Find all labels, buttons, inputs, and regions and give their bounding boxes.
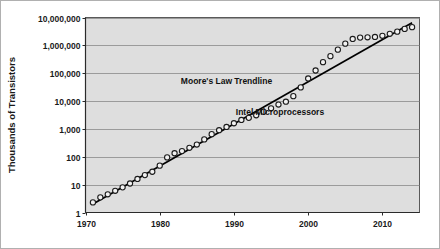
data-point bbox=[113, 188, 118, 193]
chart-annotation-label: Moore's Law Trendline bbox=[181, 76, 273, 86]
data-point bbox=[165, 155, 170, 160]
data-point bbox=[306, 76, 311, 81]
data-point bbox=[135, 176, 140, 181]
data-point bbox=[127, 181, 132, 186]
data-point bbox=[313, 68, 318, 73]
data-point bbox=[380, 33, 385, 38]
data-point bbox=[187, 145, 192, 150]
y-axis-ticks: 1101001,00010,000100,0001,000,00010,000,… bbox=[38, 14, 86, 219]
data-point bbox=[239, 117, 244, 122]
data-point bbox=[343, 41, 348, 46]
data-point bbox=[142, 173, 147, 178]
y-tick-label: 100 bbox=[66, 153, 80, 163]
data-point bbox=[98, 195, 103, 200]
data-point bbox=[291, 94, 296, 99]
y-tick-label: 1,000,000 bbox=[43, 41, 81, 51]
x-tick-label: 1980 bbox=[151, 219, 170, 229]
data-point bbox=[320, 60, 325, 65]
data-point bbox=[372, 34, 377, 39]
data-point bbox=[335, 47, 340, 52]
chart-annotation-label: Intel Microprocessors bbox=[236, 107, 325, 117]
y-tick-label: 1,000 bbox=[59, 125, 81, 135]
data-point bbox=[328, 54, 333, 59]
data-point bbox=[350, 36, 355, 41]
data-point bbox=[150, 169, 155, 174]
data-point bbox=[402, 26, 407, 31]
x-tick-label: 2010 bbox=[373, 219, 392, 229]
data-point bbox=[409, 25, 414, 30]
data-point bbox=[179, 149, 184, 154]
data-point bbox=[120, 185, 125, 190]
x-tick-label: 1970 bbox=[77, 219, 96, 229]
data-point bbox=[298, 85, 303, 90]
moores-law-chart: 1101001,00010,000100,0001,000,00010,000,… bbox=[0, 0, 440, 249]
y-tick-label: 10,000,000 bbox=[38, 14, 81, 24]
data-point bbox=[194, 142, 199, 147]
y-tick-label: 10 bbox=[71, 181, 81, 191]
data-point bbox=[387, 31, 392, 36]
data-point bbox=[224, 124, 229, 129]
x-tick-label: 1990 bbox=[225, 219, 244, 229]
x-axis-ticks: 19701980199020002010 bbox=[77, 213, 392, 229]
data-point bbox=[358, 35, 363, 40]
data-point bbox=[105, 192, 110, 197]
y-tick-label: 1 bbox=[76, 209, 81, 219]
y-axis-title: Thousands of Transistors bbox=[6, 57, 17, 173]
y-tick-label: 100,000 bbox=[50, 69, 81, 79]
data-point bbox=[90, 200, 95, 205]
x-tick-label: 2000 bbox=[299, 219, 318, 229]
y-tick-label: 10,000 bbox=[55, 97, 81, 107]
data-point bbox=[172, 151, 177, 156]
data-point bbox=[395, 29, 400, 34]
data-point bbox=[231, 121, 236, 126]
data-point bbox=[202, 137, 207, 142]
data-point bbox=[283, 99, 288, 104]
data-point bbox=[157, 163, 162, 168]
data-point bbox=[217, 128, 222, 133]
data-point bbox=[209, 132, 214, 137]
data-point bbox=[365, 35, 370, 40]
